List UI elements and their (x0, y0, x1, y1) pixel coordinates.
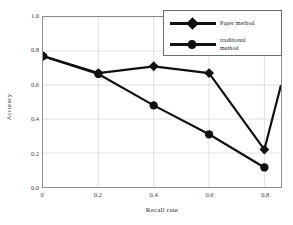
data-point-0-2 (149, 61, 159, 71)
legend-entry-traditional-method: traditional method (164, 33, 281, 56)
x-tick-label: 0.2 (83, 191, 113, 198)
legend-label-paper-method: Paper method (220, 20, 254, 28)
series-line-1 (43, 56, 264, 167)
legend-marker-diamond-icon (164, 14, 220, 34)
x-tick-label: 0 (27, 191, 57, 198)
data-point-1-4 (260, 163, 268, 171)
x-tick-label: 0.6 (194, 191, 224, 198)
legend-label-line1: traditional (220, 37, 246, 43)
legend-label-line2: method (220, 45, 239, 51)
data-point-1-3 (205, 130, 213, 138)
data-point-1-0 (43, 52, 47, 60)
legend-marker-circle-icon (164, 35, 220, 55)
series-line-0 (43, 56, 281, 150)
data-point-1-1 (94, 70, 102, 78)
data-point-1-2 (150, 101, 158, 109)
chart-figure: Accuracy 0.00.20.40.60.81.0 00.20.40.60.… (0, 0, 293, 225)
legend-entry-paper-method: Paper method (164, 12, 281, 35)
legend: Paper method traditional method (163, 10, 282, 56)
legend-label-traditional-method: traditional method (220, 37, 246, 52)
x-axis-title: Recall rate (42, 206, 282, 214)
x-tick-label: 0.4 (139, 191, 169, 198)
x-tick-label: 0.8 (250, 191, 280, 198)
